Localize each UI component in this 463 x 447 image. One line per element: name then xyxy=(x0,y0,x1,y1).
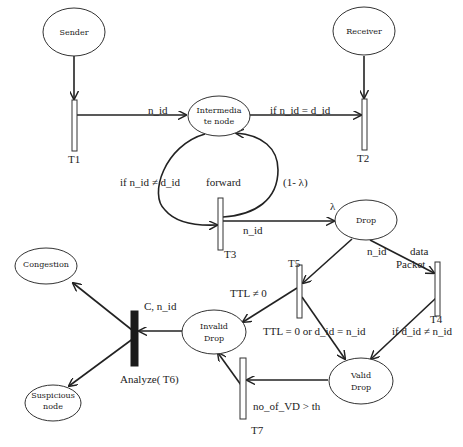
label-drop-to-t4-data: data xyxy=(410,245,428,257)
place-sender-label: Sender xyxy=(59,28,88,37)
place-drop: Drop xyxy=(335,200,397,240)
place-invalid-drop: Invalid Drop xyxy=(182,310,246,354)
label-invalid-to-t6: C, n_id xyxy=(144,300,177,312)
label-intermediate-to-t3: if n_id ≠ d_id xyxy=(120,176,181,188)
transition-t5-label: T5 xyxy=(288,257,301,269)
transition-t1 xyxy=(72,100,77,151)
place-invalid-drop-label-line1: Invalid xyxy=(200,322,228,331)
arc-t3-to-intermediate xyxy=(223,133,278,217)
label-valid-to-t7: no_of_VD > th xyxy=(253,400,321,412)
label-t5-to-valid: TTL = 0 or d_id = n_id xyxy=(263,325,366,337)
place-suspicious-label-line1: Suspicious xyxy=(31,391,75,400)
label-t5-to-invalid: TTL ≠ 0 xyxy=(230,287,267,299)
place-receiver: Receiver xyxy=(333,7,395,55)
label-intermediate-to-t2: if n_id = d_id xyxy=(270,104,331,116)
label-t4-to-valid: if d_id ≠ n_id xyxy=(392,325,453,337)
transition-t4 xyxy=(435,262,440,316)
transition-t6-label: Analyze( T6) xyxy=(120,373,179,386)
transition-t7 xyxy=(240,358,246,419)
label-drop-to-t4-nid: n_id xyxy=(367,245,387,257)
place-congestion: Congestion xyxy=(15,248,77,284)
transition-t5 xyxy=(297,265,302,318)
label-lambda: λ xyxy=(330,200,336,212)
place-receiver-label: Receiver xyxy=(346,27,382,36)
place-intermediate-label-line2: te node xyxy=(204,117,235,126)
place-suspicious-label-line2: node xyxy=(43,402,63,411)
arc-t7-to-invalid-drop xyxy=(218,353,241,385)
place-valid-drop-label-line2: Drop xyxy=(351,383,371,392)
transition-t2 xyxy=(362,99,367,150)
arc-t6-to-congestion xyxy=(73,283,132,330)
label-one-minus-lambda: (1- λ) xyxy=(283,176,308,189)
transition-t6 xyxy=(131,311,138,366)
place-intermediate-node: Intermedia te node xyxy=(188,96,250,136)
place-drop-label: Drop xyxy=(356,216,376,225)
transition-t1-label: T1 xyxy=(68,153,80,165)
label-drop-to-t4-packet: Packet xyxy=(396,258,425,270)
transition-t3 xyxy=(218,198,223,250)
transition-t4-label: T4 xyxy=(430,313,443,325)
place-suspicious-node: Suspicious node xyxy=(25,385,81,421)
label-t1-to-intermediate: n_id xyxy=(148,104,168,116)
place-valid-drop-label-line1: Valid xyxy=(350,371,371,380)
transition-t2-label: T2 xyxy=(357,152,369,164)
arc-drop-to-t5 xyxy=(303,239,352,283)
transition-t3-label: T3 xyxy=(224,248,237,260)
place-congestion-label: Congestion xyxy=(23,260,69,269)
place-valid-drop: Valid Drop xyxy=(329,358,393,404)
label-t3-to-drop: n_id xyxy=(243,224,263,236)
place-invalid-drop-label-line2: Drop xyxy=(204,334,224,343)
petri-net-diagram: Sender Receiver Intermedia te node Drop … xyxy=(0,0,463,447)
place-intermediate-label-line1: Intermedia xyxy=(197,106,242,115)
label-forward: forward xyxy=(206,176,241,188)
transition-t7-label: T7 xyxy=(251,424,264,436)
place-sender: Sender xyxy=(43,8,105,56)
